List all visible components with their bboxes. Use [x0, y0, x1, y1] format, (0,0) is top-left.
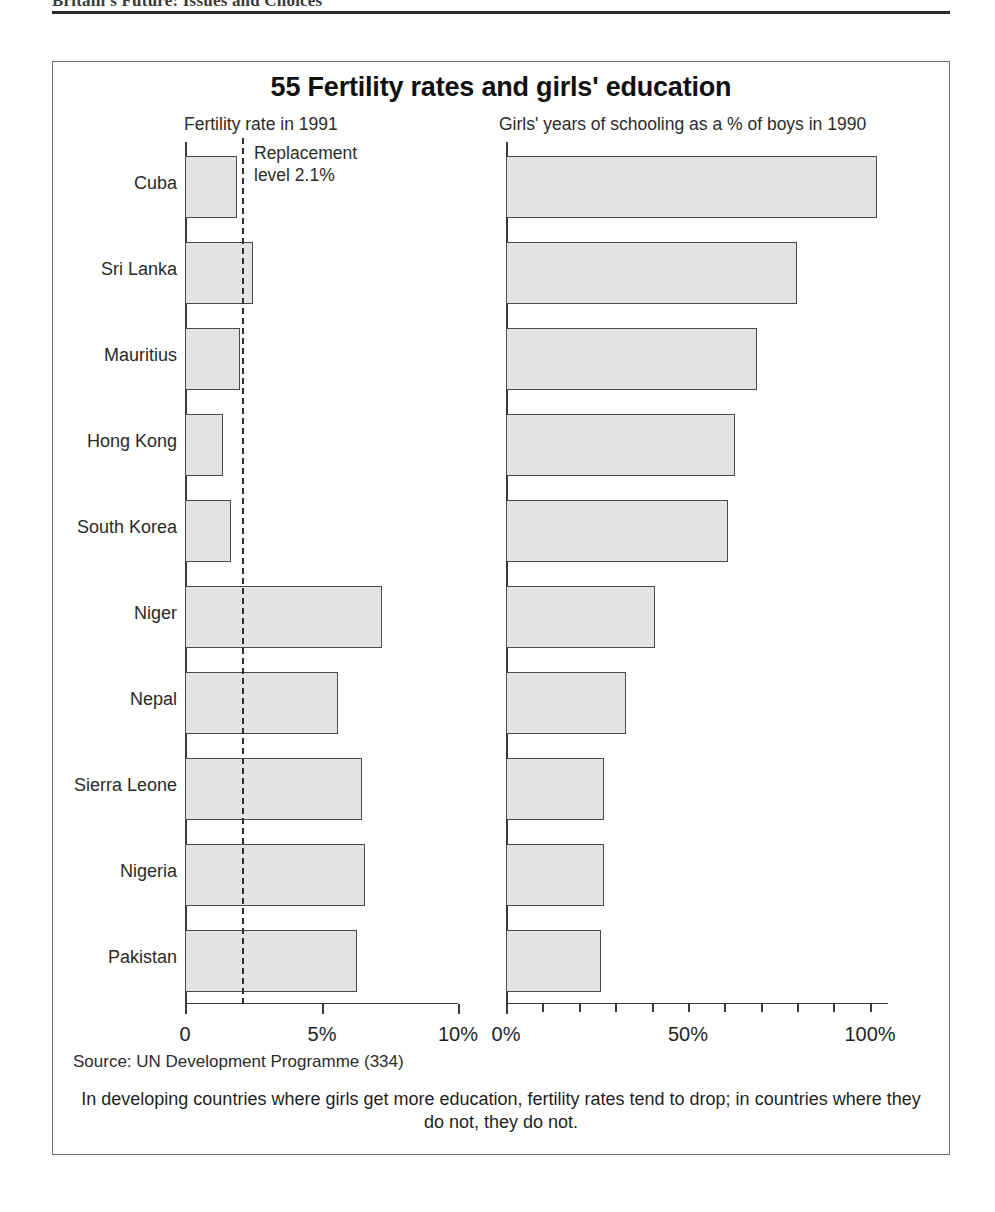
tick-label-fertility-5: 5%	[308, 1023, 337, 1046]
tick-label-schooling-100: 100%	[844, 1023, 895, 1046]
country-label-hong-kong: Hong Kong	[7, 431, 177, 452]
country-label-pakistan: Pakistan	[7, 947, 177, 968]
bar-fertility-south-korea	[185, 500, 231, 562]
panel-heading-fertility: Fertility rate in 1991	[184, 114, 338, 135]
country-label-nepal: Nepal	[7, 689, 177, 710]
source-line: Source: UN Development Programme (334)	[73, 1052, 404, 1072]
bar-schooling-nigeria	[506, 844, 604, 906]
bar-row: Hong Kong	[185, 403, 465, 489]
bar-row: Sri Lanka	[185, 231, 465, 317]
bar-row	[506, 231, 906, 317]
bar-schooling-cuba	[506, 156, 877, 218]
bar-row	[506, 145, 906, 231]
country-label-mauritius: Mauritius	[7, 345, 177, 366]
panel-heading-schooling: Girls' years of schooling as a % of boys…	[499, 114, 866, 135]
bar-row	[506, 489, 906, 575]
bar-row	[506, 575, 906, 661]
replacement-level-line: Replacement level 2.1%	[242, 138, 244, 1004]
tick-schooling-100	[870, 1004, 872, 1012]
bar-schooling-mauritius	[506, 328, 757, 390]
bar-row	[506, 403, 906, 489]
replacement-note-line2: level 2.1%	[254, 165, 335, 185]
bar-row: Nepal	[185, 661, 465, 747]
bar-row	[506, 661, 906, 747]
country-label-nigeria: Nigeria	[7, 861, 177, 882]
bar-fertility-pakistan	[185, 930, 357, 992]
bar-fertility-cuba	[185, 156, 237, 218]
tick-schooling-40	[652, 1004, 654, 1012]
tick-fertility-5	[322, 1004, 324, 1014]
bar-row: Pakistan	[185, 919, 465, 1005]
bar-schooling-sri-lanka	[506, 242, 797, 304]
tick-schooling-60	[724, 1004, 726, 1012]
bar-row	[506, 317, 906, 403]
fertility-plot: CubaSri LankaMauritiusHong KongSouth Kor…	[185, 142, 465, 1004]
country-label-sierra-leone: Sierra Leone	[7, 775, 177, 796]
bar-schooling-niger	[506, 586, 655, 648]
bar-fertility-niger	[185, 586, 382, 648]
running-head: Britain's Future: Issues and Choices	[52, 0, 392, 11]
bar-row: Sierra Leone	[185, 747, 465, 833]
tick-label-schooling-0: 0%	[492, 1023, 521, 1046]
bar-row: South Korea	[185, 489, 465, 575]
bar-row: Mauritius	[185, 317, 465, 403]
country-label-sri-lanka: Sri Lanka	[7, 259, 177, 280]
replacement-note-line1: Replacement	[254, 143, 357, 163]
figure-caption: In developing countries where girls get …	[71, 1088, 931, 1135]
tick-schooling-10	[542, 1004, 544, 1012]
tick-schooling-0	[506, 1004, 508, 1014]
tick-fertility-0	[185, 1004, 187, 1014]
tick-schooling-90	[833, 1004, 835, 1012]
bar-fertility-nepal	[185, 672, 338, 734]
bar-schooling-hong-kong	[506, 414, 735, 476]
figure-frame: 55 Fertility rates and girls' education …	[52, 61, 950, 1155]
tick-fertility-10	[458, 1004, 460, 1014]
tick-label-fertility-0: 0	[179, 1023, 190, 1046]
bar-schooling-pakistan	[506, 930, 601, 992]
country-label-niger: Niger	[7, 603, 177, 624]
replacement-level-note: Replacement level 2.1%	[254, 142, 357, 187]
bar-fertility-sierra-leone	[185, 758, 362, 820]
tick-schooling-80	[797, 1004, 799, 1012]
bar-schooling-sierra-leone	[506, 758, 604, 820]
country-label-south-korea: South Korea	[7, 517, 177, 538]
schooling-plot: 0%50%100%	[506, 142, 906, 1004]
tick-schooling-20	[579, 1004, 581, 1012]
tick-schooling-50	[688, 1004, 690, 1012]
country-label-cuba: Cuba	[7, 173, 177, 194]
bar-row	[506, 747, 906, 833]
bar-fertility-hong-kong	[185, 414, 223, 476]
bar-fertility-mauritius	[185, 328, 240, 390]
tick-label-fertility-10: 10%	[438, 1023, 478, 1046]
bar-row	[506, 833, 906, 919]
bar-row: Nigeria	[185, 833, 465, 919]
bar-row	[506, 919, 906, 1005]
header-rule	[52, 11, 950, 14]
tick-schooling-30	[615, 1004, 617, 1012]
tick-label-schooling-50: 50%	[668, 1023, 708, 1046]
bar-fertility-nigeria	[185, 844, 365, 906]
bar-schooling-nepal	[506, 672, 626, 734]
bar-schooling-south-korea	[506, 500, 728, 562]
tick-schooling-70	[761, 1004, 763, 1012]
bar-row: Niger	[185, 575, 465, 661]
figure-title: 55 Fertility rates and girls' education	[53, 72, 949, 103]
